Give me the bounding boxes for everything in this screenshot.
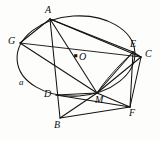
segment-D-F: [56, 95, 130, 107]
segment-M-E: [97, 52, 133, 93]
segments-group: [20, 19, 141, 118]
arc-label-a: a: [19, 78, 24, 87]
point-label-O: O: [79, 52, 86, 62]
segment-B-F: [60, 107, 130, 118]
point-label-B: B: [54, 120, 60, 130]
center-marker-group: [74, 54, 77, 57]
point-label-G: G: [8, 36, 15, 46]
geometry-figure: A G O E C D M B F a: [0, 0, 160, 141]
point-label-M: M: [95, 95, 103, 105]
point-label-C: C: [145, 49, 152, 59]
point-label-F: F: [129, 108, 135, 118]
center-dot-O: [74, 54, 77, 57]
point-label-D: D: [44, 89, 51, 99]
point-label-A: A: [45, 5, 51, 15]
segment-A-M: [50, 19, 97, 93]
point-label-E: E: [130, 39, 136, 49]
segment-A-G: [20, 19, 50, 43]
geometry-canvas: [0, 0, 160, 141]
